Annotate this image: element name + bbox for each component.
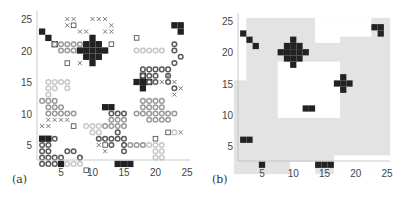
cross-marker xyxy=(103,149,107,153)
circle-marker xyxy=(160,99,165,104)
obstacle-cell xyxy=(246,137,252,143)
circle-marker xyxy=(160,67,165,72)
obstacle-cell xyxy=(253,43,259,49)
circle-marker xyxy=(153,99,158,104)
circle-marker xyxy=(172,61,177,66)
circle-marker xyxy=(147,80,152,85)
x-tick-label: 20 xyxy=(150,167,162,178)
y-tick-label: 15 xyxy=(222,79,234,90)
obstacle-marker xyxy=(178,28,184,34)
circle-marker xyxy=(160,111,165,116)
circle-marker xyxy=(65,42,70,47)
circle-marker xyxy=(52,80,57,85)
circle-marker xyxy=(46,111,51,116)
obstacle-marker xyxy=(133,79,139,85)
circle-marker xyxy=(166,118,171,123)
circle-marker xyxy=(134,143,139,148)
obstacle-cell xyxy=(371,24,377,30)
y-tick-label: 10 xyxy=(222,110,234,121)
circle-marker xyxy=(147,73,152,78)
circle-marker xyxy=(40,99,45,104)
circle-marker xyxy=(141,105,146,110)
circle-marker xyxy=(59,111,64,116)
circle-marker xyxy=(153,111,158,116)
circle-marker xyxy=(71,111,76,116)
circle-marker xyxy=(109,143,114,148)
circle-marker xyxy=(109,136,114,141)
circle-marker xyxy=(103,124,108,129)
circle-marker xyxy=(128,143,133,148)
x-tick-label: 25 xyxy=(181,167,193,178)
circle-marker xyxy=(153,73,158,78)
obstacle-marker xyxy=(96,41,102,47)
circle-marker xyxy=(147,99,152,104)
obstacle-cell xyxy=(309,105,315,111)
circle-marker xyxy=(46,155,51,160)
circle-marker xyxy=(153,105,158,110)
circle-marker xyxy=(59,155,64,160)
square-marker xyxy=(71,124,76,129)
y-tick-label: 25 xyxy=(21,14,33,25)
circle-marker xyxy=(78,155,83,160)
obstacle-marker xyxy=(140,85,146,91)
obstacle-marker xyxy=(39,136,45,142)
circle-marker xyxy=(52,162,57,167)
circle-marker xyxy=(78,42,83,47)
x-tick-label: 10 xyxy=(87,167,99,178)
obstacle-marker xyxy=(102,104,108,110)
obstacle-marker xyxy=(96,47,102,53)
circle-marker xyxy=(160,118,165,123)
circle-marker xyxy=(141,99,146,104)
cross-marker xyxy=(172,80,176,84)
circle-marker xyxy=(40,143,45,148)
circle-marker xyxy=(115,111,120,116)
circle-marker xyxy=(84,124,89,129)
circle-marker xyxy=(147,143,152,148)
circle-marker xyxy=(147,48,152,53)
circle-marker xyxy=(40,149,45,154)
circle-marker xyxy=(115,136,120,141)
circle-marker xyxy=(147,118,152,123)
circle-marker xyxy=(153,118,158,123)
x-tick-label: 5 xyxy=(58,167,64,178)
obstacle-cell xyxy=(303,49,309,55)
circle-marker xyxy=(52,105,57,110)
circle-marker xyxy=(46,86,51,91)
circle-marker xyxy=(122,111,127,116)
panel-label: (a) xyxy=(12,173,27,186)
panel-label: (b) xyxy=(212,173,228,186)
obstacle-marker xyxy=(140,79,146,85)
obstacle-cell xyxy=(296,43,302,49)
circle-marker xyxy=(166,111,171,116)
circle-marker xyxy=(46,80,51,85)
obstacle-cell xyxy=(315,162,321,168)
obstacle-cell xyxy=(284,49,290,55)
circle-marker xyxy=(52,111,57,116)
obstacle-marker xyxy=(89,35,95,41)
circle-marker xyxy=(97,124,102,129)
circle-marker xyxy=(160,105,165,110)
x-tick-label: 15 xyxy=(319,168,331,179)
square-marker xyxy=(109,42,114,47)
circle-marker xyxy=(153,143,158,148)
cross-marker xyxy=(72,17,76,21)
circle-marker xyxy=(71,42,76,47)
obstacle-marker xyxy=(102,47,108,53)
circle-marker xyxy=(141,67,146,72)
obstacle-cell xyxy=(290,37,296,43)
cross-marker xyxy=(97,143,101,147)
obstacle-marker xyxy=(89,41,95,47)
circle-marker xyxy=(52,42,57,47)
circle-marker xyxy=(40,155,45,160)
circle-marker xyxy=(90,130,95,135)
obstacle-cell xyxy=(378,30,384,36)
obstacle-marker xyxy=(178,22,184,28)
circle-marker xyxy=(109,111,114,116)
circle-marker xyxy=(115,124,120,129)
figure: 510152025510152025(a)510152025510152025(… xyxy=(0,0,413,198)
circle-marker xyxy=(178,55,183,60)
circle-marker xyxy=(160,149,165,154)
obstacle-marker xyxy=(45,35,51,41)
circle-marker xyxy=(166,80,171,85)
obstacle-marker xyxy=(96,54,102,60)
